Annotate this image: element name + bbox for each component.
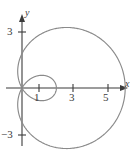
y-axis-name: y bbox=[25, 8, 29, 18]
x-tick-label-1: 1 bbox=[34, 92, 40, 103]
y-tick-label-3: 3 bbox=[7, 26, 13, 37]
x-tick-label-3: 3 bbox=[69, 92, 75, 103]
plot-canvas bbox=[0, 0, 134, 151]
x-axis-name: x bbox=[125, 79, 129, 89]
polar-graph-figure: 1 3 5 3 −3 x y bbox=[0, 0, 134, 151]
y-tick-label-minus-3: −3 bbox=[1, 129, 13, 140]
x-tick-label-5: 5 bbox=[103, 92, 109, 103]
